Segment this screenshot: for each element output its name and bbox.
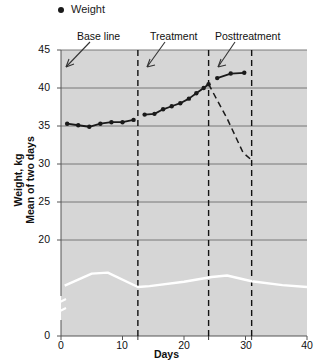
series-marker-1-7	[201, 86, 205, 90]
series-marker-0-5	[120, 120, 124, 124]
series-marker-1-2	[161, 107, 165, 111]
series-marker-1-3	[170, 104, 174, 108]
series-marker-2-2	[242, 71, 246, 75]
series-marker-0-4	[109, 120, 113, 124]
series-marker-1-0	[142, 112, 146, 116]
series-marker-0-1	[76, 123, 80, 127]
series-marker-0-0	[65, 122, 69, 126]
plot-background	[61, 50, 307, 336]
plot-canvas	[0, 0, 333, 363]
y-axis-ticks	[57, 50, 61, 336]
series-marker-2-1	[229, 71, 233, 75]
series-marker-1-1	[152, 112, 156, 116]
series-marker-0-3	[98, 122, 102, 126]
series-marker-1-5	[187, 96, 191, 100]
series-marker-1-4	[178, 101, 182, 105]
series-marker-2-0	[215, 76, 219, 80]
chart-figure: Weight Base line Treatment Posttreatment…	[0, 0, 333, 363]
series-marker-0-2	[87, 125, 91, 129]
series-marker-0-6	[131, 118, 135, 122]
series-marker-1-6	[194, 91, 198, 95]
